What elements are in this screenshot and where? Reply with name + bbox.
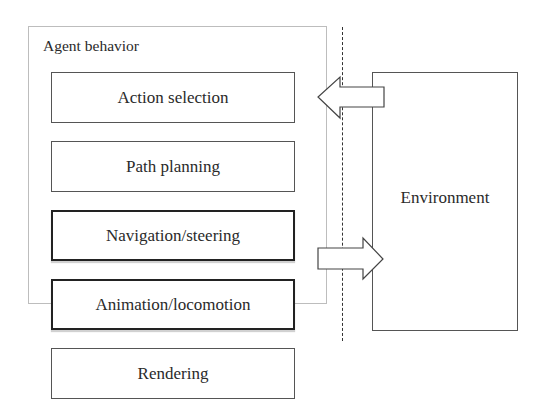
arrows-layer [0,0,540,417]
arrow-right-icon [318,238,383,279]
arrow-left-icon [318,77,384,118]
